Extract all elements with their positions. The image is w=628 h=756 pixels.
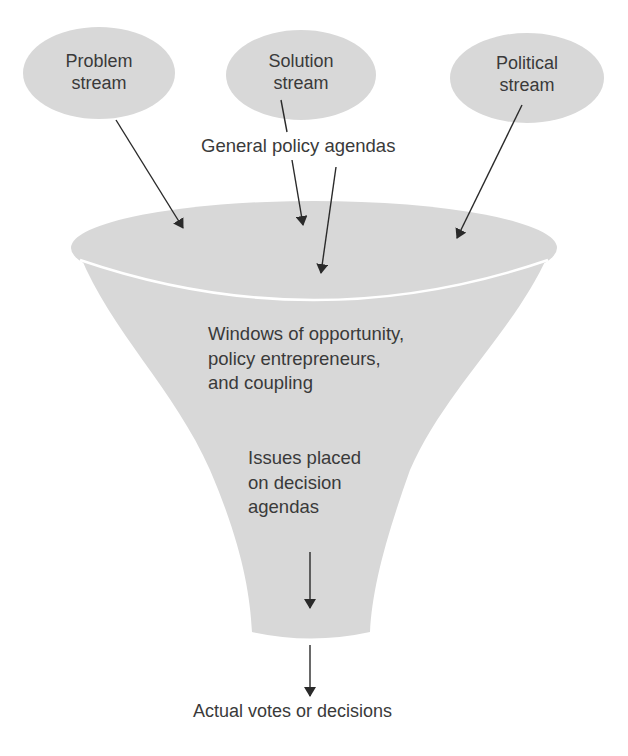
solution-stream-label: Solution stream — [241, 50, 361, 94]
problem-stream-label: Problem stream — [39, 50, 159, 94]
policy-funnel-diagram: Problem stream Solution stream Political… — [0, 0, 628, 756]
general-policy-agendas-label: General policy agendas — [199, 134, 397, 158]
funnel-top-ellipse — [71, 201, 557, 295]
decision-agendas-label: Issues placed on decision agendas — [248, 446, 361, 520]
actual-votes-label: Actual votes or decisions — [193, 700, 392, 722]
coupling-label: Windows of opportunity, policy entrepren… — [208, 322, 404, 396]
political-stream-label: Political stream — [467, 52, 587, 96]
problem-arrow — [116, 120, 183, 228]
